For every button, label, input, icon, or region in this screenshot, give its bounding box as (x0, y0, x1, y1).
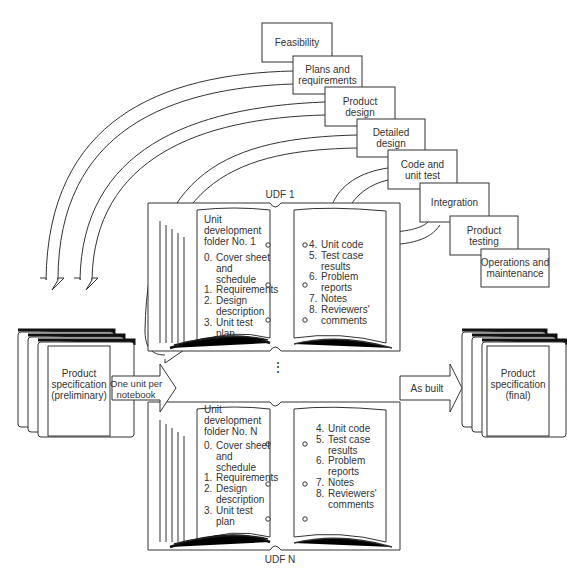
udf1-title: Unit development folder No. 1 (204, 215, 261, 247)
list-item: 0.Cover sheet and schedule (204, 441, 278, 473)
arrow-as-built-label: As built (405, 383, 449, 394)
list-item: 2.Design description (204, 296, 278, 318)
list-item: 6.Problem reports (309, 272, 370, 294)
udfN-title: Unit development folder No. N (204, 405, 261, 437)
list-item: 2.Design description (204, 484, 278, 506)
phase-label: Operations and maintenance (481, 257, 549, 279)
list-item: 5.Test case results (316, 435, 377, 457)
udfN-left-list: 0.Cover sheet and schedule 1.Requirement… (204, 441, 278, 527)
arrow-one-unit-label: One unit per notebook (110, 378, 162, 400)
phase-label: Product testing (467, 225, 501, 247)
list-item: 3.Unit test plan (204, 318, 278, 340)
spec-preliminary-label: Product specification (preliminary) (48, 368, 110, 401)
udf1-caption: UDF 1 (255, 189, 305, 200)
phase-label: Integration (431, 197, 478, 208)
list-item: 8.Reviewers' comments (309, 305, 370, 327)
udfN-right-list: 4.Unit code 5.Test case results 6.Proble… (316, 424, 377, 510)
udf1-left-list: 0.Cover sheet and schedule 1.Requirement… (204, 253, 278, 339)
diagram-canvas (0, 0, 567, 577)
phase-label: Feasibility (275, 37, 319, 48)
list-item: 0.Cover sheet and schedule (204, 253, 278, 285)
phase-label: Product design (343, 96, 377, 118)
list-item: 3.Unit test plan (204, 506, 278, 528)
list-item: 5.Test case results (309, 251, 370, 273)
udfN-caption: UDF N (255, 554, 305, 565)
phase-label: Detailed design (373, 127, 410, 149)
phase-operations-maintenance: Operations and maintenance (481, 249, 549, 287)
udf1-right-list: 4.Unit code 5.Test case results 6.Proble… (309, 240, 370, 326)
phase-label: Plans and requirements (298, 64, 356, 86)
list-item: 6.Problem reports (316, 456, 377, 478)
ellipsis-vertical: ⋮ (268, 360, 288, 374)
list-item: 8.Reviewers' comments (316, 489, 377, 511)
spec-final-label: Product specification (final) (487, 368, 549, 401)
phase-label: Code and unit test (401, 159, 444, 181)
